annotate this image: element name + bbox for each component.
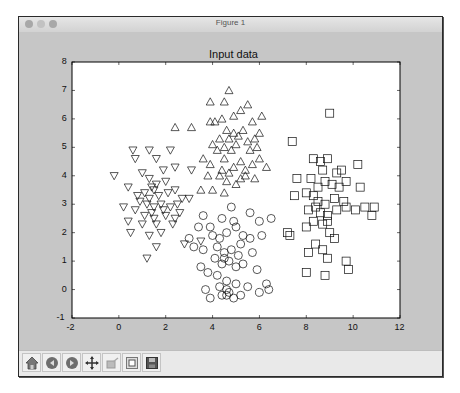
y-tick-label: 4	[62, 170, 67, 180]
title-bar[interactable]: Figure 1	[19, 17, 442, 33]
y-tick-label: 1	[62, 255, 67, 265]
y-tick-label: 6	[62, 113, 67, 123]
y-tick-label: 2	[62, 227, 67, 237]
x-tick-label: -2	[67, 322, 75, 332]
y-tick-label: 3	[62, 198, 67, 208]
navigation-toolbar	[19, 350, 442, 376]
x-tick-label: 2	[163, 322, 168, 332]
x-tick-label: 12	[395, 322, 405, 332]
figure-canvas[interactable]: Input data -2024681012-1012345678	[19, 32, 442, 352]
save-floppy-icon	[145, 356, 159, 370]
plot-title: Input data	[209, 48, 258, 60]
home-button[interactable]	[22, 353, 41, 372]
y-tick-label: -1	[57, 312, 65, 322]
y-tick-label: 8	[62, 56, 67, 66]
window-title: Figure 1	[19, 18, 442, 27]
y-tick-label: 7	[62, 84, 67, 94]
forward-arrow-icon	[65, 356, 79, 370]
x-tick-label: 4	[210, 322, 215, 332]
pan-cross-arrows-icon	[85, 356, 99, 370]
zoom-rect-button[interactable]	[102, 353, 121, 372]
home-icon	[25, 356, 39, 370]
x-tick-label: 10	[348, 322, 358, 332]
pan-button[interactable]	[82, 353, 101, 372]
x-tick-label: 0	[116, 322, 121, 332]
back-arrow-icon	[45, 356, 59, 370]
subplots-button[interactable]	[122, 353, 141, 372]
x-tick-label: 6	[257, 322, 262, 332]
forward-button[interactable]	[62, 353, 81, 372]
save-button[interactable]	[142, 353, 161, 372]
y-tick-label: 0	[62, 284, 67, 294]
zoom-rect-icon	[105, 356, 119, 370]
scatter-plot[interactable]	[19, 32, 442, 352]
back-button[interactable]	[42, 353, 61, 372]
figure-window: Figure 1 Input data -2024681012-10123456…	[18, 16, 443, 377]
x-tick-label: 8	[304, 322, 309, 332]
y-tick-label: 5	[62, 141, 67, 151]
subplots-config-icon	[125, 356, 139, 370]
